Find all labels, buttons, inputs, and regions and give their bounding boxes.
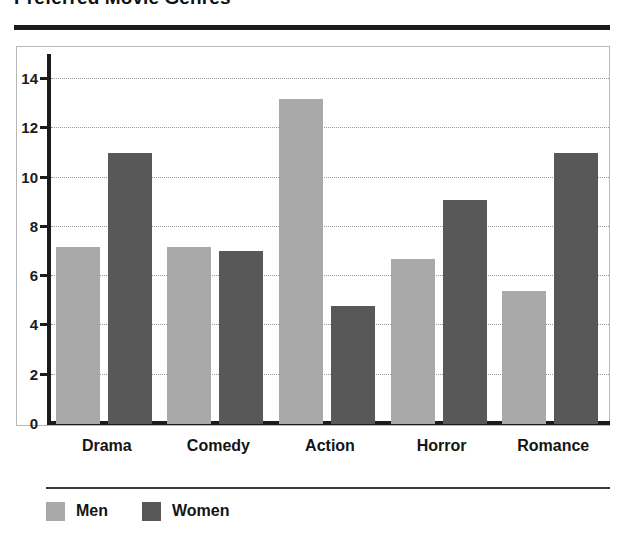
legend-divider (46, 487, 610, 489)
bar-comedy-women (219, 251, 263, 424)
y-axis-tick-label: 2 (10, 365, 38, 382)
y-axis-tick-label: 12 (10, 119, 38, 136)
bar-action-men (279, 99, 323, 424)
legend-swatch-men (46, 502, 65, 521)
bar-horror-men (391, 259, 435, 424)
legend-label-men: Men (76, 502, 108, 520)
y-axis-tick-label: 10 (10, 168, 38, 185)
y-axis-tick-label: 6 (10, 267, 38, 284)
legend-item-men[interactable]: Men (46, 502, 108, 521)
category-label-action: Action (305, 437, 355, 455)
category-label-romance: Romance (517, 437, 589, 455)
legend-item-women[interactable]: Women (142, 502, 229, 521)
legend-label-women: Women (172, 502, 229, 520)
bar-drama-men (56, 247, 100, 424)
bar-comedy-men (167, 247, 211, 424)
x-axis-category-labels: DramaComedyActionHorrorRomance (0, 437, 624, 463)
y-axis-tick-label: 14 (10, 69, 38, 86)
y-axis-tick-label: 8 (10, 217, 38, 234)
bar-romance-men (502, 291, 546, 424)
chart-legend: MenWomen (46, 498, 229, 524)
title-divider (14, 25, 610, 30)
category-label-drama: Drama (82, 437, 132, 455)
bar-action-women (331, 306, 375, 424)
bar-romance-women (554, 153, 598, 424)
legend-swatch-women (142, 502, 161, 521)
bar-horror-women (443, 200, 487, 424)
chart-title: Preferred Movie Genres (14, 0, 231, 9)
y-axis-tick-label: 0 (10, 415, 38, 432)
category-label-horror: Horror (417, 437, 467, 455)
category-label-comedy: Comedy (187, 437, 250, 455)
bar-drama-women (108, 153, 152, 424)
plot-area (48, 54, 606, 424)
y-axis-tick-label: 4 (10, 316, 38, 333)
chart-card: Preferred Movie Genres 02468101214 Drama… (0, 0, 624, 543)
